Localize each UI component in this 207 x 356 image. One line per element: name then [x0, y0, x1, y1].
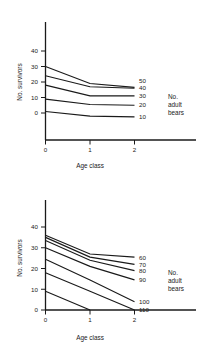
- bottom-series-line-90: [46, 248, 135, 280]
- top-y-tick-label-10: 10: [31, 94, 38, 101]
- bottom-y-tick-label-20: 20: [31, 265, 38, 272]
- bottom-series-label-60: 60: [139, 254, 146, 261]
- bottom-series-line-100: [46, 259, 135, 302]
- bottom-series-line-lowest: [46, 291, 91, 310]
- bottom-series-label-100: 100: [139, 298, 150, 305]
- top-y-axis-title: No. survivors: [16, 63, 23, 100]
- top-series-label-20: 20: [139, 101, 146, 108]
- bottom-series-label-110: 110: [139, 306, 149, 313]
- top-x-tick-label-1: 1: [88, 146, 92, 153]
- bottom-series-line-110: [46, 273, 135, 310]
- top-x-tick-label-2: 2: [133, 146, 137, 153]
- bottom-y-axis-title: No. survivors: [16, 239, 23, 276]
- bottom-legend-title-line-2: adult: [168, 277, 182, 284]
- top-series-line-10: [46, 112, 135, 117]
- top-legend-title-line-2: adult: [168, 101, 182, 108]
- top-series-label-50: 50: [139, 77, 146, 84]
- bottom-y-tick-label-40: 40: [31, 223, 38, 230]
- bottom-x-tick-label-1: 1: [88, 316, 92, 323]
- bottom-chart-panel: 40 30 20 10 0 0 1 2 60 70 80 90 100 110 …: [0, 178, 207, 356]
- bottom-x-axis-title: Age class: [76, 334, 104, 342]
- top-legend-title-line-3: bears: [168, 109, 184, 116]
- bottom-y-tick-label-10: 10: [31, 286, 38, 293]
- top-x-tick-label-0: 0: [44, 146, 48, 153]
- top-y-tick-label-20: 20: [31, 78, 38, 85]
- top-series-line-50: [46, 67, 135, 88]
- top-series-label-40: 40: [139, 84, 146, 91]
- top-chart-svg: 40 30 20 10 0 0 1 2 50 40 30 20 10 No. a…: [0, 0, 207, 178]
- top-chart-panel: 40 30 20 10 0 0 1 2 50 40 30 20 10 No. a…: [0, 0, 207, 178]
- top-series-line-20: [46, 99, 135, 105]
- bottom-chart-svg: 40 30 20 10 0 0 1 2 60 70 80 90 100 110 …: [0, 178, 207, 356]
- bottom-legend-title-line-1: No.: [168, 269, 178, 276]
- bottom-series-label-80: 80: [139, 267, 146, 274]
- top-y-tick-label-30: 30: [31, 63, 38, 70]
- top-y-tick-label-40: 40: [31, 47, 38, 54]
- bottom-y-tick-label-30: 30: [31, 244, 38, 251]
- bottom-x-tick-label-2: 2: [133, 316, 137, 323]
- bottom-legend-title-line-3: bears: [168, 285, 184, 292]
- top-series-label-10: 10: [139, 113, 146, 120]
- top-x-axis-title: Age class: [76, 162, 104, 170]
- top-legend-title-line-1: No.: [168, 93, 178, 100]
- bottom-series-label-90: 90: [139, 276, 146, 283]
- bottom-y-tick-label-0: 0: [35, 306, 39, 313]
- bottom-x-tick-label-0: 0: [44, 316, 48, 323]
- top-y-tick-label-0: 0: [35, 109, 39, 116]
- top-series-label-30: 30: [139, 92, 146, 99]
